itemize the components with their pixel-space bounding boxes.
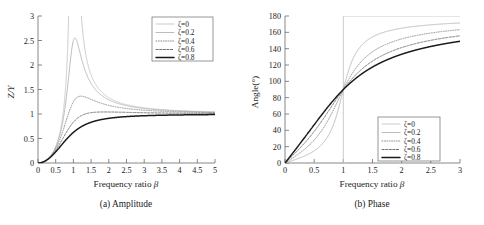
y-tick-label: 180 [269, 12, 281, 21]
panel-amplitude: 0 0.5 1 1.5 2 2.5 3 [0, 0, 242, 225]
y-tick-label: 160 [269, 28, 281, 37]
curve-zeta-0.6 [38, 112, 215, 163]
figure-transmissibility: 0 0.5 1 1.5 2 2.5 3 [0, 0, 484, 225]
curve-zeta-0.8 [38, 115, 215, 163]
y-axis-title-a: Z/Y [6, 85, 16, 99]
x-axis-title-text: Frequency ratio [340, 179, 400, 189]
y-tick-label: 2 [30, 61, 34, 70]
x-tick-label: 4 [178, 166, 182, 175]
panel-phase: 0 20 40 60 80 100 120 140 160 180 [242, 0, 484, 225]
caption-b: (b) Phase [354, 199, 389, 210]
x-axis-title-a: Frequency ratio β [94, 179, 159, 189]
phase-chart: 0 20 40 60 80 100 120 140 160 180 [242, 0, 484, 225]
x-tick-label: 1 [71, 166, 75, 175]
x-tick-label: 0.5 [309, 166, 319, 175]
caption-a: (a) Amplitude [100, 199, 152, 210]
curve-zeta-0.4 [38, 96, 215, 163]
x-tick-label: 1.5 [86, 166, 96, 175]
amplitude-chart: 0 0.5 1 1.5 2 2.5 3 [0, 0, 242, 225]
x-axis-title-b: Frequency ratio β [340, 179, 405, 189]
x-tick-label: 0 [283, 166, 287, 175]
x-tick-label: 2 [400, 166, 404, 175]
y-tick-label: 20 [273, 143, 281, 152]
y-tick-label: 2.5 [24, 37, 34, 46]
x-tick-label: 5 [213, 166, 217, 175]
y-ticks-b [285, 16, 289, 163]
x-tick-labels-b: 0 0.5 1 1.5 2 2.5 3 [283, 166, 462, 175]
y-tick-label: 0 [30, 159, 34, 168]
y-axis-title-b: Angle(°) [250, 76, 260, 108]
x-tick-labels-a: 0 0.5 1 1.5 2 2.5 3 3.5 4 4.5 5 [36, 166, 217, 175]
y-tick-label: 0 [277, 159, 281, 168]
legend-label: ζ=0.8 [178, 53, 195, 62]
x-tick-label: 1.5 [367, 166, 377, 175]
x-tick-label: 2.5 [121, 166, 131, 175]
y-tick-labels-b: 0 20 40 60 80 100 120 140 160 180 [269, 12, 281, 168]
y-tick-labels-a: 0 0.5 1 1.5 2 2.5 3 [24, 12, 34, 168]
x-tick-label: 0.5 [51, 166, 61, 175]
curve-zeta-0 [38, 0, 70, 163]
y-ticks-a [38, 16, 42, 163]
x-tick-label: 3.5 [157, 166, 167, 175]
legend-a: ζ=0 ζ=0.2 ζ=0.4 ζ=0.6 ζ=0.8 [152, 17, 213, 62]
x-tick-label: 3 [458, 166, 462, 175]
y-tick-label: 3 [30, 12, 34, 21]
y-tick-label: 1.5 [24, 86, 34, 95]
y-tick-label: 140 [269, 45, 281, 54]
y-tick-label: 120 [269, 61, 281, 70]
x-tick-label: 1 [341, 166, 345, 175]
y-tick-label: 0.5 [24, 135, 34, 144]
x-tick-label: 3 [142, 166, 146, 175]
legend-b: ζ=0 ζ=0.2 ζ=0.4 ζ=0.6 ζ=0.8 [378, 117, 440, 162]
y-tick-label: 1 [30, 110, 34, 119]
x-ticks-a [38, 159, 215, 163]
y-tick-label: 40 [273, 126, 281, 135]
y-tick-label: 80 [273, 94, 281, 103]
y-tick-label: 60 [273, 110, 281, 119]
x-axis-title-text: Frequency ratio [94, 179, 154, 189]
beta-symbol: β [153, 179, 159, 189]
y-tick-label: 100 [269, 77, 281, 86]
legend-label: ζ=0.8 [404, 153, 421, 162]
x-tick-label: 2 [107, 166, 111, 175]
x-tick-label: 4.5 [192, 166, 202, 175]
x-tick-label: 0 [36, 166, 40, 175]
beta-symbol: β [399, 179, 405, 189]
x-tick-label: 2.5 [426, 166, 436, 175]
